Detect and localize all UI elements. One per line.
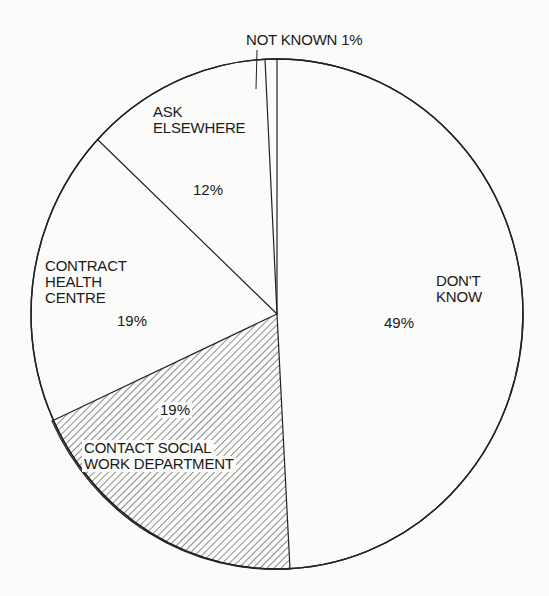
label-social-work-2: WORK DEPARTMENT [82,456,236,472]
label-health-1: CONTRACT [45,258,127,274]
pct-ask-elsewhere: 12% [193,182,223,198]
label-health-2: HEALTH [45,274,102,290]
label-health-3: CENTRE [45,290,105,306]
label-social-work-1: CONTACT SOCIAL [82,440,214,456]
label-not-known: NOT KNOWN 1% [246,32,363,48]
label-dont-know-1: DON'T [436,273,480,289]
pct-dont-know: 49% [384,315,414,331]
pct-social-work: 19% [158,402,192,418]
label-dont-know-2: KNOW [436,289,482,305]
label-ask-elsewhere-1: ASK [153,104,182,120]
label-ask-elsewhere-2: ELSEWHERE [153,120,245,136]
pct-health: 19% [117,313,147,329]
